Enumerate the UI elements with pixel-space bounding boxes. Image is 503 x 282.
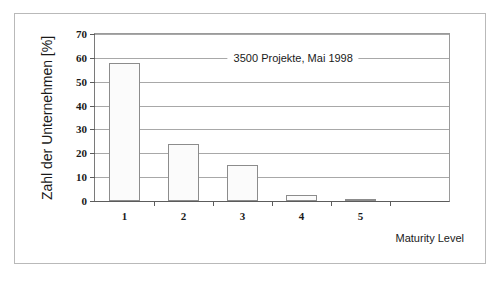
y-axis-tick — [90, 201, 95, 202]
y-axis-tick-label: 30 — [76, 123, 87, 135]
figure-frame: Zahl der Unternehmen [%] 010203040506070… — [14, 13, 486, 264]
x-axis-title-label: Maturity Level — [396, 232, 464, 244]
plot-annotation: 3500 Projekte, Mai 1998 — [228, 52, 359, 64]
y-axis-tick — [90, 153, 95, 154]
bar — [227, 165, 258, 201]
y-axis-tick-label: 0 — [82, 195, 88, 207]
bar — [109, 63, 140, 201]
y-axis-tick-label: 70 — [76, 28, 87, 40]
y-axis-tick — [90, 177, 95, 178]
x-axis-tick-label: 5 — [358, 210, 364, 222]
y-axis-tick — [90, 129, 95, 130]
y-gridline — [95, 153, 449, 154]
x-axis-tick — [154, 201, 155, 206]
y-gridline — [95, 177, 449, 178]
y-gridline — [95, 106, 449, 107]
y-axis-tick-label: 10 — [76, 171, 87, 183]
bar-chart: Zahl der Unternehmen [%] 010203040506070… — [15, 14, 487, 265]
y-axis-tick-label: 20 — [76, 147, 87, 159]
x-axis-title: Maturity Level — [15, 232, 464, 244]
x-axis-tick-label: 4 — [299, 210, 305, 222]
y-axis-tick-label: 50 — [76, 76, 87, 88]
x-axis-tick — [331, 201, 332, 206]
y-axis-title: Zahl der Unternehmen [%] — [37, 33, 57, 202]
x-axis-tick-label: 1 — [122, 210, 128, 222]
bar — [286, 195, 317, 201]
y-gridline — [95, 34, 449, 35]
y-axis-tick-label: 40 — [76, 100, 87, 112]
plot-area: 010203040506070123453500 Projekte, Mai 1… — [94, 33, 450, 202]
x-axis-tick-label: 3 — [240, 210, 246, 222]
bar — [345, 199, 376, 201]
y-axis-tick — [90, 58, 95, 59]
x-axis-tick — [272, 201, 273, 206]
x-axis-tick-label: 2 — [181, 210, 187, 222]
x-axis-tick — [213, 201, 214, 206]
x-axis-tick — [390, 201, 391, 206]
y-axis-title-label: Zahl der Unternehmen [%] — [39, 35, 55, 199]
y-axis-tick — [90, 34, 95, 35]
y-axis-tick — [90, 106, 95, 107]
y-gridline — [95, 129, 449, 130]
bar — [168, 144, 199, 201]
y-axis-tick — [90, 82, 95, 83]
y-gridline — [95, 82, 449, 83]
y-axis-tick-label: 60 — [76, 52, 87, 64]
